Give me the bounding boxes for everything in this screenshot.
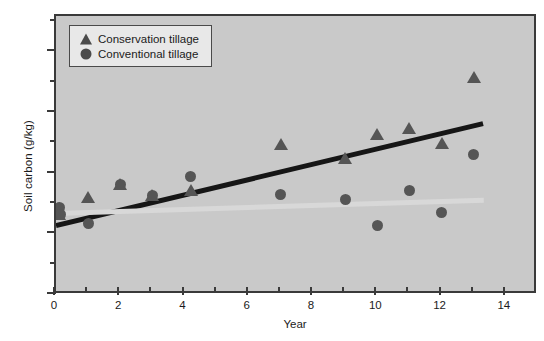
x-tick-label: 2 <box>98 299 138 311</box>
x-tick-minor <box>85 287 87 292</box>
x-tick-minor <box>214 287 216 292</box>
legend-item-conventional: Conventional tillage <box>78 46 199 61</box>
x-axis-title: Year <box>54 318 536 330</box>
x-tick-label: 0 <box>34 299 74 311</box>
x-tick-major <box>310 287 312 295</box>
data-point-conservation <box>338 152 352 164</box>
plot-area: Conservation tillage Conventional tillag… <box>54 14 536 293</box>
x-tick-minor <box>149 287 151 292</box>
x-tick-major <box>503 287 505 295</box>
legend-label-conservation: Conservation tillage <box>98 33 199 45</box>
x-tick-label: 6 <box>227 299 267 311</box>
legend-item-conservation: Conservation tillage <box>78 31 199 46</box>
data-point-conservation <box>81 191 95 203</box>
x-tick-label: 12 <box>420 299 460 311</box>
data-point-conservation <box>435 137 449 149</box>
data-point-conventional <box>404 185 415 196</box>
data-point-conservation <box>402 122 416 134</box>
data-point-conservation <box>370 128 384 140</box>
legend-label-conventional: Conventional tillage <box>98 48 198 60</box>
x-tick-major <box>182 287 184 295</box>
x-tick-major <box>117 287 119 295</box>
chart-figure: Soil carbon (g/kg) 05101520 Conservation… <box>0 0 544 341</box>
circle-marker-icon <box>78 47 94 61</box>
x-tick-minor <box>278 287 280 292</box>
data-point-conventional <box>115 179 126 190</box>
y-axis-title: Soil carbon (g/kg) <box>22 76 34 256</box>
x-tick-minor <box>471 287 473 292</box>
x-tick-major <box>374 287 376 295</box>
x-tick-label: 4 <box>163 299 203 311</box>
data-point-conventional <box>468 149 479 160</box>
x-tick-label: 14 <box>484 299 524 311</box>
data-point-conventional <box>147 190 158 201</box>
x-tick-major <box>53 287 55 295</box>
data-point-conventional <box>83 218 94 229</box>
x-tick-major <box>246 287 248 295</box>
triangle-marker-icon <box>78 32 94 46</box>
chart-legend: Conservation tillage Conventional tillag… <box>69 25 212 67</box>
plot-canvas: Conservation tillage Conventional tillag… <box>56 16 534 291</box>
data-point-conservation <box>274 138 288 150</box>
data-point-conventional <box>372 220 383 231</box>
data-point-conventional <box>340 194 351 205</box>
x-tick-major <box>439 287 441 295</box>
data-point-conservation <box>467 71 481 83</box>
data-point-conventional <box>275 189 286 200</box>
data-point-conventional <box>185 171 196 182</box>
x-tick-label: 8 <box>291 299 331 311</box>
x-tick-label: 10 <box>355 299 395 311</box>
data-point-conventional <box>436 207 447 218</box>
data-point-conservation <box>184 184 198 196</box>
x-tick-minor <box>342 287 344 292</box>
x-tick-minor <box>406 287 408 292</box>
